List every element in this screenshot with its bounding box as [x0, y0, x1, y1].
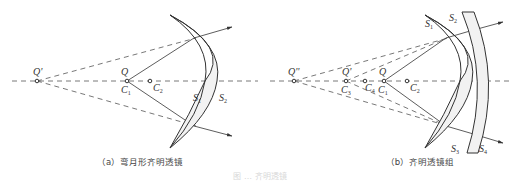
virtual-ray-upper-a	[37, 38, 196, 81]
point-q-prime-c3	[344, 79, 348, 83]
label-q: Q	[121, 66, 129, 77]
label-c1-b: C1	[378, 84, 388, 96]
label-c4: C4	[365, 82, 375, 94]
caption-a: （a）弯月形齐明透镜	[97, 157, 183, 167]
panel-a: Q' Q C1 C2 S1 S2 （a）弯月形齐明透镜	[12, 15, 258, 167]
point-c2	[148, 79, 152, 83]
label-q-double-prime: Q''	[288, 66, 300, 77]
virtual-ray-upper-qp	[346, 38, 447, 81]
label-c2: C2	[153, 82, 163, 94]
label-q-prime: Q'	[33, 66, 43, 77]
panel-b: Q'' Q' C3 C4 Q C1 C2 S1 S2 S3 S4 （b）齐明透镜…	[270, 12, 512, 167]
label-c3: C3	[341, 84, 351, 96]
label-s2-b: S2	[449, 12, 457, 24]
label-c1: C1	[121, 84, 131, 96]
label-s4-b: S4	[479, 143, 487, 155]
point-q-c1	[125, 79, 129, 83]
label-s3-b: S3	[451, 143, 459, 155]
ray-upper-b	[384, 38, 446, 81]
virtual-ray-lower-qp	[346, 81, 447, 126]
aplanatic-lens-diagram: Q' Q C1 C2 S1 S2 （a）弯月形齐明透镜	[0, 0, 519, 182]
meniscus-lens-a	[170, 15, 218, 148]
virtual-ray-lower-a	[37, 81, 196, 126]
meniscus-lens-b	[425, 15, 473, 148]
figure-caption: 图 … 齐明透镜	[233, 171, 286, 181]
label-s2: S2	[219, 92, 227, 104]
caption-b: （b）齐明透镜组	[386, 157, 454, 167]
exit-ray-lower-a	[194, 126, 232, 136]
virtual-ray-upper-qpp	[294, 38, 448, 81]
point-c2-b	[405, 79, 409, 83]
point-q-c1-b	[382, 79, 386, 83]
label-c2-b: C2	[410, 82, 420, 94]
label-q-b: Q	[379, 66, 387, 77]
point-q-double-prime	[292, 79, 296, 83]
point-q-prime	[35, 79, 39, 83]
label-q-prime-b: Q'	[342, 66, 352, 77]
ray-upper-a	[127, 38, 194, 81]
